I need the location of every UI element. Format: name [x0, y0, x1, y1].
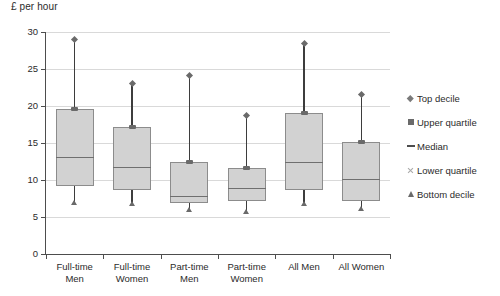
x-label-line: Full-time — [103, 261, 160, 273]
y-tick-label: 15 — [12, 138, 38, 148]
upper-whisker — [361, 94, 363, 141]
y-tick-label-wrap: 0 — [0, 249, 38, 259]
top-decile-marker — [300, 40, 307, 47]
square-marker — [404, 116, 417, 128]
gridline — [46, 106, 390, 107]
bottom-decile-marker — [71, 200, 77, 205]
upper-quartile-marker — [186, 160, 193, 164]
dash-marker — [404, 140, 417, 152]
box-plot-group — [228, 32, 266, 254]
upper-whisker — [74, 39, 76, 109]
bottom-decile-marker — [301, 201, 307, 206]
x-axis-label: Part-timeMen — [161, 261, 218, 284]
x-label-line: Part-time — [161, 261, 218, 273]
x-tick-mark — [333, 254, 334, 259]
y-tick-label-wrap: 15 — [0, 138, 38, 148]
plot-area — [46, 32, 390, 254]
box-plot-group — [342, 32, 380, 254]
legend-item: Lower quartile — [404, 158, 500, 182]
y-tick-label: 10 — [12, 175, 38, 185]
x-label-line: Women — [218, 273, 275, 285]
box-plot-group — [113, 32, 151, 254]
x-tick-mark — [46, 254, 47, 259]
top-decile-marker — [128, 80, 135, 87]
gridline — [46, 69, 390, 70]
median-line — [342, 179, 380, 180]
median-line — [113, 167, 151, 168]
gridline — [46, 143, 390, 144]
box-plot-group — [170, 32, 208, 254]
box-rect — [285, 113, 323, 189]
median-line — [56, 157, 94, 158]
box-rect — [228, 168, 266, 201]
triangle-marker — [404, 188, 417, 200]
box-rect — [56, 109, 94, 186]
legend-label: Upper quartile — [417, 117, 477, 128]
x-axis-label: All Men — [275, 261, 332, 273]
x-tick-mark — [103, 254, 104, 259]
x-label-line: Part-time — [218, 261, 275, 273]
x-axis-label: Full-timeMen — [46, 261, 103, 284]
bottom-decile-marker — [186, 207, 192, 212]
upper-whisker — [246, 116, 248, 169]
x-marker — [404, 164, 417, 176]
x-label-line: Men — [161, 273, 218, 285]
legend-item: Upper quartile — [404, 110, 500, 134]
legend-label: Top decile — [417, 93, 460, 104]
x-label-line: Full-time — [46, 261, 103, 273]
top-decile-marker — [358, 91, 365, 98]
median-line — [285, 162, 323, 163]
y-tick-label: 0 — [12, 249, 38, 259]
x-axis-label: Full-timeWomen — [103, 261, 160, 284]
x-label-line: All Men — [275, 261, 332, 273]
x-tick-mark — [390, 254, 391, 259]
x-tick-mark — [275, 254, 276, 259]
y-tick-label-wrap: 5 — [0, 212, 38, 222]
legend-item: Bottom decile — [404, 182, 500, 206]
upper-quartile-marker — [358, 140, 365, 144]
x-label-line: Women — [103, 273, 160, 285]
y-tick-label-wrap: 10 — [0, 175, 38, 185]
box-rect — [113, 127, 151, 190]
gridline — [46, 217, 390, 218]
x-tick-mark — [161, 254, 162, 259]
x-axis-label: All Women — [333, 261, 390, 273]
y-tick-label: 25 — [12, 64, 38, 74]
median-line — [170, 196, 208, 197]
diamond-marker-glyph — [407, 95, 413, 101]
upper-quartile-marker — [243, 166, 250, 170]
diamond-marker — [404, 92, 417, 104]
box-plot-group — [56, 32, 94, 254]
box-rect — [170, 162, 208, 203]
triangle-marker-glyph — [408, 191, 414, 197]
y-axis-title: £ per hour — [11, 1, 58, 13]
upper-whisker — [131, 84, 133, 128]
x-label-line: All Women — [333, 261, 390, 273]
gridline — [46, 180, 390, 181]
box-plot-group — [285, 32, 323, 254]
x-tick-mark — [218, 254, 219, 259]
upper-quartile-marker — [301, 111, 308, 115]
x-marker-glyph — [407, 167, 414, 174]
legend-label: Lower quartile — [417, 165, 477, 176]
upper-whisker — [189, 76, 191, 163]
bottom-decile-marker — [243, 209, 249, 214]
top-decile-marker — [71, 36, 78, 43]
top-decile-marker — [186, 72, 193, 79]
dash-marker-glyph — [407, 145, 415, 147]
y-tick-label: 5 — [12, 212, 38, 222]
y-tick-label-wrap: 25 — [0, 64, 38, 74]
box-plot-chart: £ per hour 051015202530 Full-timeMenFull… — [0, 0, 500, 296]
square-marker-glyph — [408, 119, 414, 125]
legend-label: Bottom decile — [417, 189, 475, 200]
gridline — [46, 32, 390, 33]
legend-item: Top decile — [404, 86, 500, 110]
y-tick-label-wrap: 20 — [0, 101, 38, 111]
x-axis-label: Part-timeWomen — [218, 261, 275, 284]
y-tick-label: 30 — [12, 27, 38, 37]
bottom-decile-marker — [129, 201, 135, 206]
legend: Top decileUpper quartileMedianLower quar… — [404, 86, 500, 206]
top-decile-marker — [243, 112, 250, 119]
x-label-line: Men — [46, 273, 103, 285]
y-tick-label: 20 — [12, 101, 38, 111]
